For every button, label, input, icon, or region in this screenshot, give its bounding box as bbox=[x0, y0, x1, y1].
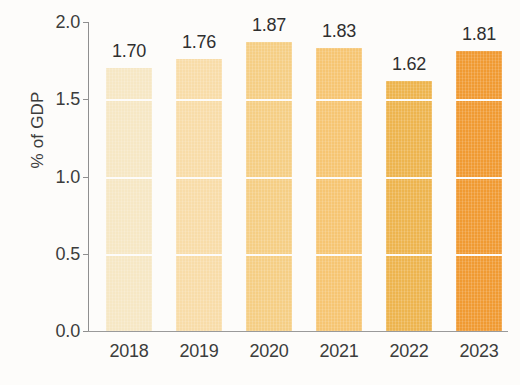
bar-value-label: 1.70 bbox=[112, 41, 146, 62]
y-tick-label: 2.0 bbox=[56, 12, 80, 33]
x-axis-line bbox=[88, 331, 508, 332]
x-tick-label: 2020 bbox=[246, 341, 292, 362]
x-tick-label: 2022 bbox=[386, 341, 432, 362]
y-tick-label: 0.5 bbox=[56, 243, 80, 264]
bar[interactable] bbox=[316, 48, 362, 331]
bar[interactable] bbox=[456, 51, 502, 331]
gridline bbox=[89, 254, 508, 256]
x-axis-labels: 201820192020202120222023 bbox=[88, 341, 508, 371]
y-tick-label: 1.0 bbox=[56, 166, 80, 187]
bar[interactable] bbox=[106, 68, 152, 331]
y-tick-label: 1.5 bbox=[56, 89, 80, 110]
bar[interactable] bbox=[386, 81, 432, 331]
bar[interactable] bbox=[246, 42, 292, 331]
x-tick-label: 2023 bbox=[456, 341, 502, 362]
x-tick-label: 2018 bbox=[106, 341, 152, 362]
bar-value-label: 1.76 bbox=[182, 32, 216, 53]
gridline bbox=[89, 99, 508, 101]
x-tick-label: 2019 bbox=[176, 341, 222, 362]
plot-area: 0.00.51.01.52.0 1.701.761.871.831.621.81 bbox=[88, 22, 508, 331]
y-axis-title: % of GDP bbox=[28, 70, 48, 190]
bar-chart: % of GDP 0.00.51.01.52.0 1.701.761.871.8… bbox=[0, 0, 520, 385]
bar-value-label: 1.62 bbox=[392, 54, 426, 75]
y-tick-label: 0.0 bbox=[56, 321, 80, 342]
bar-value-label: 1.83 bbox=[322, 21, 356, 42]
bar-value-label: 1.81 bbox=[462, 24, 496, 45]
y-tick-mark bbox=[83, 331, 88, 332]
bar-value-label: 1.87 bbox=[252, 15, 286, 36]
x-tick-label: 2021 bbox=[316, 341, 362, 362]
gridline bbox=[89, 177, 508, 179]
